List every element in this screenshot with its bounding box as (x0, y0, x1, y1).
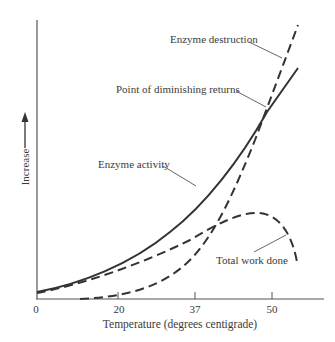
y-axis-arrow-icon (22, 112, 29, 122)
x-tick-label-50: 50 (267, 303, 279, 315)
total-work-curve (37, 213, 297, 293)
annotation-total-pointer (254, 235, 286, 252)
annotation-activity-pointer (163, 166, 196, 186)
x-tick-label-20: 20 (114, 303, 126, 315)
annotation-enzyme-destruction: Enzyme destruction (170, 33, 258, 45)
y-axis-label: Increase (19, 149, 31, 186)
x-tick-label-37: 37 (190, 303, 202, 315)
annotation-destruction-pointer (249, 42, 282, 58)
annotation-total-work-done: Total work done (216, 254, 288, 266)
annotation-diminishing-returns: Point of diminishing returns (116, 83, 240, 95)
annotation-diminishing-pointer (236, 91, 266, 107)
annotation-enzyme-activity: Enzyme activity (98, 158, 170, 170)
x-tick-label-0: 0 (33, 303, 39, 315)
enzyme-temperature-chart: 0 20 37 50 Temperature (degrees centigra… (0, 0, 335, 342)
x-axis-label: Temperature (degrees centigrade) (103, 318, 258, 331)
